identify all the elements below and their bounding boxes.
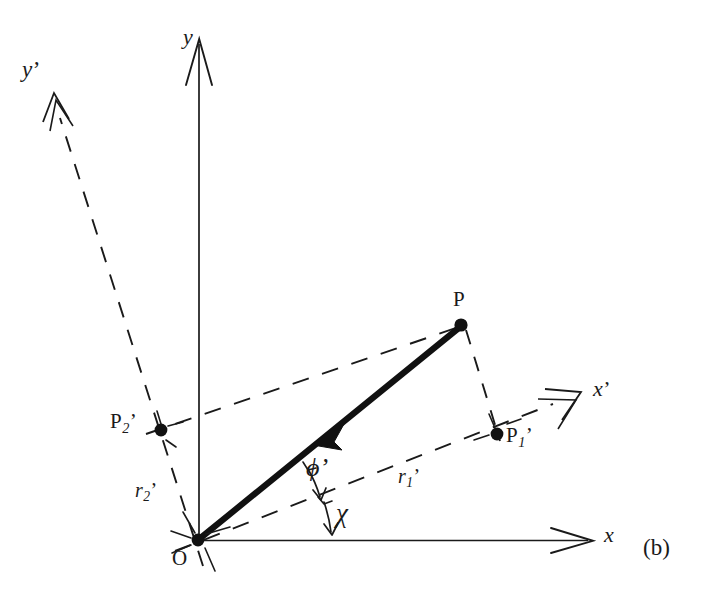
segment-r2-prime-label-prime: ’ [150,479,157,501]
origin-label: O [172,548,187,569]
point-p2-prime-label: P2’ [110,411,137,435]
point-p-label: P [453,289,465,310]
point-p2-prime-label-text: P [110,409,122,433]
construction-line-p-to-p1prime [466,330,500,441]
y-axis-line [186,39,212,540]
segment-r2-prime-label-subscript: 2 [143,489,150,504]
construction-line-p2prime-to-p [146,327,459,434]
point-p [454,318,467,331]
position-vector [198,327,460,540]
segment-r1-prime-label-prime: ’ [413,465,420,487]
diagram-canvas [0,0,714,597]
point-p2-prime-label-prime: ’ [129,409,137,433]
angle-phi-prime-label: ϕ’ [306,455,328,481]
panel-label: (b) [643,536,670,559]
x-prime-axis-label-text: x [593,376,603,401]
x-prime-axis-label-prime: ’ [603,376,611,401]
segment-r1-prime-label: r1’ [398,466,420,490]
point-p1-prime-label: P1’ [506,425,533,449]
segment-r1-prime-label-text: r [398,465,406,487]
y-prime-axis-label: y’ [22,58,40,81]
segment-r2-prime-label-text: r [135,479,143,501]
point-p2-prime [155,411,183,447]
x-prime-axis-label: x’ [593,378,611,400]
angle-arc-chi [318,497,338,535]
segment-r1-prime-label-subscript: 1 [406,475,413,490]
y-axis-label: y [183,26,193,48]
point-p1-prime-label-prime: ’ [525,423,533,447]
y-prime-axis-label-prime: ’ [32,57,40,82]
x-prime-axis-line [175,389,581,551]
point-p1-prime-label-text: P [506,423,518,447]
segment-r2-prime-label: r2’ [135,480,157,504]
figure-panel: y y’ x x’ O P P1’ P2’ r1’ r2’ ϕ’ χ (b) [0,0,714,597]
angle-chi-label: χ [336,500,348,527]
y-prime-axis-line [43,93,203,566]
x-axis-line [198,528,593,553]
x-axis-label: x [604,524,614,546]
y-prime-axis-label-text: y [22,57,32,82]
